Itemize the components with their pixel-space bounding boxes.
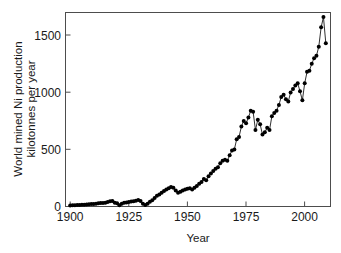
data-point bbox=[310, 62, 314, 66]
data-point bbox=[244, 121, 248, 125]
data-point bbox=[319, 25, 323, 29]
data-point bbox=[204, 178, 208, 182]
data-point bbox=[289, 90, 293, 94]
y-tick-label-1000: 1000 bbox=[34, 86, 61, 100]
x-tick-label-1925: 1925 bbox=[115, 210, 142, 224]
line-chart: 0 500 1000 1500 1900 1925 1950 1975 2000… bbox=[0, 0, 341, 253]
data-point bbox=[232, 147, 236, 151]
data-point bbox=[317, 45, 321, 49]
y-axis-title-line1: World mined Ni production bbox=[12, 41, 24, 176]
data-point bbox=[268, 128, 272, 132]
data-point bbox=[216, 165, 220, 169]
data-point bbox=[314, 54, 318, 58]
data-point bbox=[298, 89, 302, 93]
data-point bbox=[246, 115, 250, 119]
x-tick-label-2000: 2000 bbox=[291, 210, 318, 224]
data-point bbox=[263, 130, 267, 134]
data-point bbox=[275, 109, 279, 113]
x-tick-label-1975: 1975 bbox=[233, 210, 260, 224]
data-point bbox=[291, 87, 295, 91]
y-tick-label-500: 500 bbox=[41, 143, 61, 157]
data-point bbox=[251, 110, 255, 114]
data-point bbox=[282, 93, 286, 97]
chart-figure: 0 500 1000 1500 1900 1925 1950 1975 2000… bbox=[0, 0, 341, 253]
data-point bbox=[277, 103, 281, 107]
y-tick-label-1500: 1500 bbox=[34, 29, 61, 43]
data-point bbox=[321, 15, 325, 19]
data-point bbox=[225, 159, 229, 163]
data-point bbox=[303, 81, 307, 85]
data-point bbox=[237, 135, 241, 139]
data-point bbox=[324, 41, 328, 45]
data-point bbox=[239, 125, 243, 129]
data-point bbox=[256, 118, 260, 122]
x-axis-title: Year bbox=[186, 232, 209, 244]
data-point bbox=[270, 114, 274, 118]
x-tick-label-1950: 1950 bbox=[174, 210, 201, 224]
data-point bbox=[296, 81, 300, 85]
x-tick-label-1900: 1900 bbox=[57, 210, 84, 224]
data-point bbox=[286, 100, 290, 104]
data-point bbox=[300, 98, 304, 102]
data-point bbox=[228, 153, 232, 157]
y-axis-title-line2: kilotonnes per year bbox=[25, 60, 37, 157]
data-point bbox=[307, 69, 311, 73]
data-point bbox=[253, 128, 257, 132]
data-point bbox=[258, 122, 262, 126]
